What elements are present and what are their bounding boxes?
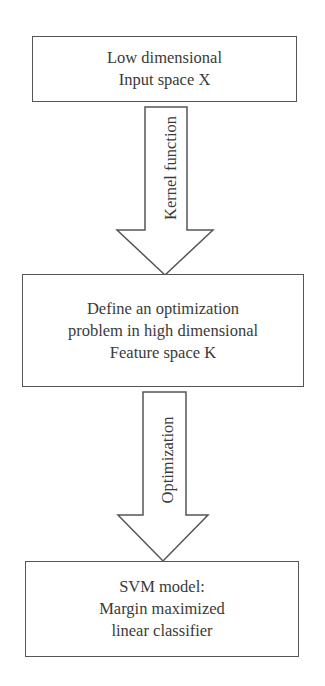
- feature-space-box: Define an optimization problem in high d…: [22, 274, 304, 387]
- input-space-box: Low dimensional Input space X: [32, 36, 297, 102]
- optimization-arrow: Optimization: [118, 392, 208, 561]
- down-arrow-icon: [118, 392, 208, 561]
- kernel-function-arrow: Kernel function: [117, 107, 213, 275]
- box-text-line: Feature space K: [110, 342, 216, 364]
- down-arrow-icon: [117, 107, 213, 275]
- kernel-function-label: Kernel function: [161, 116, 180, 220]
- box-text-line: Define an optimization: [87, 298, 239, 320]
- box-text-line: Low dimensional: [107, 47, 222, 69]
- optimization-label: Optimization: [158, 416, 177, 503]
- box-text-line: SVM model:: [119, 576, 205, 598]
- svm-model-box: SVM model: Margin maximized linear class…: [25, 561, 299, 657]
- box-text-line: Margin maximized: [99, 598, 225, 620]
- box-text-line: linear classifier: [111, 620, 212, 642]
- box-text-line: problem in high dimensional: [68, 320, 258, 342]
- box-text-line: Input space X: [119, 69, 211, 91]
